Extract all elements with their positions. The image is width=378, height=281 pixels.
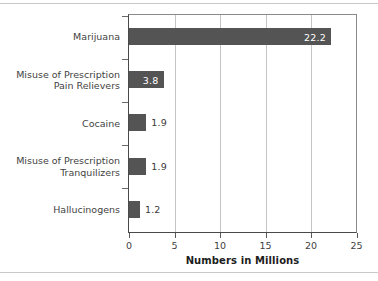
bar-value-label: 1.9 (151, 117, 167, 128)
bar-row: 1.9 (129, 145, 356, 188)
x-tick-label: 25 (350, 240, 362, 251)
category-axis: MarijuanaMisuse of PrescriptionPain Reli… (0, 14, 124, 233)
x-tick-label: 10 (214, 240, 226, 251)
x-tick (129, 233, 130, 238)
bar: 22.2 (129, 28, 331, 45)
x-tick (357, 233, 358, 238)
x-tick (266, 233, 267, 238)
category-label-line: Cocaine (0, 118, 120, 130)
bar: 3.8 (129, 71, 164, 88)
bar-row: 1.2 (129, 188, 356, 231)
category-label: Cocaine (0, 118, 120, 130)
bar-row: 22.2 (129, 15, 356, 58)
category-label-line: Tranquilizers (0, 167, 120, 179)
x-tick-label: 0 (126, 240, 132, 251)
bar-row: 1.9 (129, 101, 356, 144)
category-label-line: Hallucinogens (0, 204, 120, 216)
bar-value-label: 22.2 (304, 31, 326, 42)
x-tick-label: 15 (259, 240, 271, 251)
x-axis-tick-labels: 0510152025 (0, 240, 378, 254)
x-tick-label: 20 (305, 240, 317, 251)
x-tick (311, 233, 312, 238)
bar (129, 201, 140, 218)
x-tick (220, 233, 221, 238)
bar (129, 158, 146, 175)
category-label-line: Marijuana (0, 31, 120, 43)
bar-series: 22.23.81.91.91.2 (129, 15, 356, 232)
x-axis-ticks (128, 233, 357, 239)
horizontal-bar-chart: MarijuanaMisuse of PrescriptionPain Reli… (0, 0, 378, 281)
bar-value-label: 3.8 (143, 74, 159, 85)
category-label: Marijuana (0, 31, 120, 43)
x-axis-title: Numbers in Millions (128, 255, 357, 266)
category-label: Hallucinogens (0, 204, 120, 216)
category-label-line: Misuse of Prescription (0, 155, 120, 167)
category-label-line: Misuse of Prescription (0, 69, 120, 81)
plot-area: 22.23.81.91.91.2 (128, 14, 357, 233)
x-tick (175, 233, 176, 238)
category-label: Misuse of PrescriptionPain Relievers (0, 69, 120, 92)
bar-row: 3.8 (129, 58, 356, 101)
category-label-line: Pain Relievers (0, 80, 120, 92)
bar-value-label: 1.9 (151, 161, 167, 172)
bar (129, 114, 146, 131)
x-tick-label: 5 (171, 240, 177, 251)
category-label: Misuse of PrescriptionTranquilizers (0, 155, 120, 178)
bar-value-label: 1.2 (145, 204, 161, 215)
